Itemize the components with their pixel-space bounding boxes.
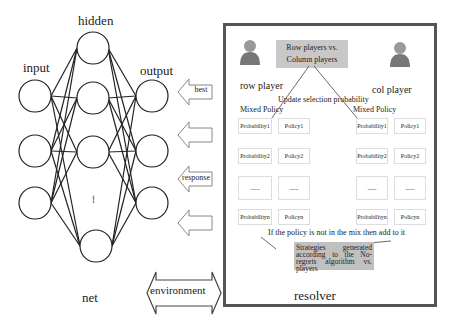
- right-policy-2: Policy2: [394, 148, 426, 164]
- left-policy-2: Policy2: [278, 148, 310, 164]
- right-prob-1: Probability1: [356, 118, 388, 134]
- arrow-left-icon: [177, 121, 213, 149]
- right-policy-1: Policy1: [394, 118, 426, 134]
- net-label: net: [82, 290, 98, 306]
- hidden-label: hidden: [78, 13, 113, 29]
- left-prob-2: Probability2: [238, 148, 272, 164]
- left-prob-ellipsis: ......: [238, 176, 272, 200]
- strategies-box: Strategies generated according to the No…: [294, 242, 374, 270]
- left-policy-ellipsis: ......: [278, 176, 310, 200]
- mix-add-text: If the policy is not in the mix then add…: [268, 228, 405, 237]
- right-policy-n: Policyn: [394, 209, 426, 225]
- resolver-label: resolver: [294, 288, 336, 304]
- resolver-box: Row players vs. Column players row playe…: [223, 23, 437, 307]
- arrow-left-icon: [177, 209, 213, 237]
- right-prob-2: Probability2: [356, 148, 388, 164]
- left-prob-1: Probability1: [238, 118, 272, 134]
- hidden-ellipsis: ......: [91, 195, 101, 203]
- left-policy-n: Policyn: [278, 209, 310, 225]
- connections-hidden-output: [108, 48, 136, 246]
- left-prob-n: Probabilityn: [238, 209, 272, 225]
- right-policy-ellipsis: ......: [394, 176, 426, 200]
- arrow-best-label: best: [190, 85, 212, 94]
- right-prob-n: Probabilityn: [356, 209, 388, 225]
- environment-label: environment: [150, 284, 206, 296]
- left-policy-1: Policy1: [278, 118, 310, 134]
- arrow-response-label: response: [179, 173, 213, 182]
- connections-input-hidden: [51, 48, 80, 246]
- right-prob-ellipsis: ......: [356, 176, 388, 200]
- output-label: output: [140, 63, 173, 79]
- input-label: input: [23, 60, 50, 76]
